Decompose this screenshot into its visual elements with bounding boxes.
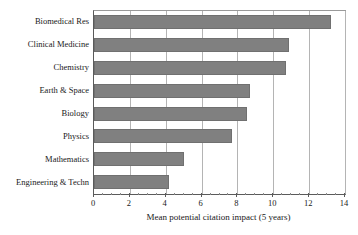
x-tick-label: 4 xyxy=(163,198,167,209)
x-tick-minor xyxy=(263,193,264,195)
x-tick-minor xyxy=(227,193,228,195)
category-label: Earth & Space xyxy=(0,85,89,95)
x-tick-major xyxy=(236,193,237,197)
x-tick-minor xyxy=(335,193,336,195)
bar xyxy=(94,152,184,166)
category-label: Mathematics xyxy=(0,154,89,164)
bar-row xyxy=(94,11,345,34)
x-tick-label: 8 xyxy=(234,198,238,209)
x-tick-label: 14 xyxy=(340,198,349,209)
x-axis-title: Mean potential citation impact (5 years) xyxy=(93,211,344,223)
x-tick-major xyxy=(129,193,130,197)
x-tick-minor xyxy=(183,193,184,195)
bar-row xyxy=(94,125,345,148)
x-tick-minor xyxy=(210,193,211,195)
x-tick-major xyxy=(165,193,166,197)
x-tick-major xyxy=(272,193,273,197)
x-tick-minor xyxy=(254,193,255,195)
bar-row xyxy=(94,57,345,80)
x-tick-minor xyxy=(281,193,282,195)
gridline xyxy=(345,11,346,194)
bar xyxy=(94,61,286,75)
x-tick-label: 12 xyxy=(304,198,313,209)
bar-row xyxy=(94,34,345,57)
bar-row xyxy=(94,171,345,194)
x-tick-minor xyxy=(290,193,291,195)
x-tick-minor xyxy=(326,193,327,195)
bar xyxy=(94,129,232,143)
x-tick-minor xyxy=(299,193,300,195)
x-tick-label: 10 xyxy=(268,198,277,209)
x-tick-major xyxy=(308,193,309,197)
category-label: Clinical Medicine xyxy=(0,39,89,49)
bar xyxy=(94,84,250,98)
bar-series xyxy=(94,11,345,194)
x-tick-label: 6 xyxy=(198,198,202,209)
category-axis-labels: Biomedical ResClinical MedicineChemistry… xyxy=(0,10,89,193)
x-tick-minor xyxy=(192,193,193,195)
bar xyxy=(94,38,289,52)
x-tick-minor xyxy=(219,193,220,195)
x-tick-major xyxy=(344,193,345,197)
category-label: Biomedical Res xyxy=(0,16,89,26)
bar-chart: Biomedical ResClinical MedicineChemistry… xyxy=(0,0,358,235)
x-tick-minor xyxy=(317,193,318,195)
x-tick-minor xyxy=(174,193,175,195)
x-tick-major xyxy=(93,193,94,197)
bar xyxy=(94,175,169,189)
x-tick-minor xyxy=(147,193,148,195)
bar-row xyxy=(94,80,345,103)
bar-row xyxy=(94,148,345,171)
category-label: Engineering & Techn xyxy=(0,177,89,187)
x-tick-minor xyxy=(156,193,157,195)
category-label: Biology xyxy=(0,108,89,118)
x-tick-major xyxy=(201,193,202,197)
bar xyxy=(94,107,247,121)
category-label: Physics xyxy=(0,131,89,141)
category-label: Chemistry xyxy=(0,62,89,72)
x-tick-minor xyxy=(138,193,139,195)
x-tick-minor xyxy=(102,193,103,195)
bar-row xyxy=(94,103,345,126)
x-tick-label: 2 xyxy=(127,198,131,209)
plot-area xyxy=(93,10,346,195)
x-tick-label: 0 xyxy=(91,198,95,209)
x-tick-minor xyxy=(245,193,246,195)
x-tick-minor xyxy=(111,193,112,195)
x-tick-minor xyxy=(120,193,121,195)
bar xyxy=(94,15,331,29)
